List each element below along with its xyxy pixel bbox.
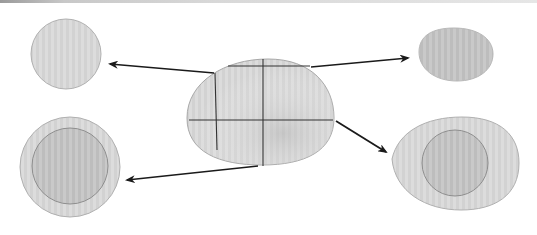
central-egg: [187, 59, 334, 166]
product-cell-top-left: [31, 19, 101, 89]
cleavage-diagram: [0, 0, 537, 235]
arrow-to-bottom-left: [127, 166, 258, 180]
product-cell-top-right: [419, 28, 493, 81]
arrow-to-bottom-right: [336, 121, 386, 152]
arrow-to-top-left: [110, 64, 214, 73]
product-cell-bottom-right: [392, 117, 519, 210]
arrow-to-top-right: [311, 58, 408, 67]
product-cell-bottom-left: [20, 117, 120, 217]
nucleus-bottom-right: [422, 130, 488, 196]
nucleus-bottom-left: [32, 128, 108, 204]
